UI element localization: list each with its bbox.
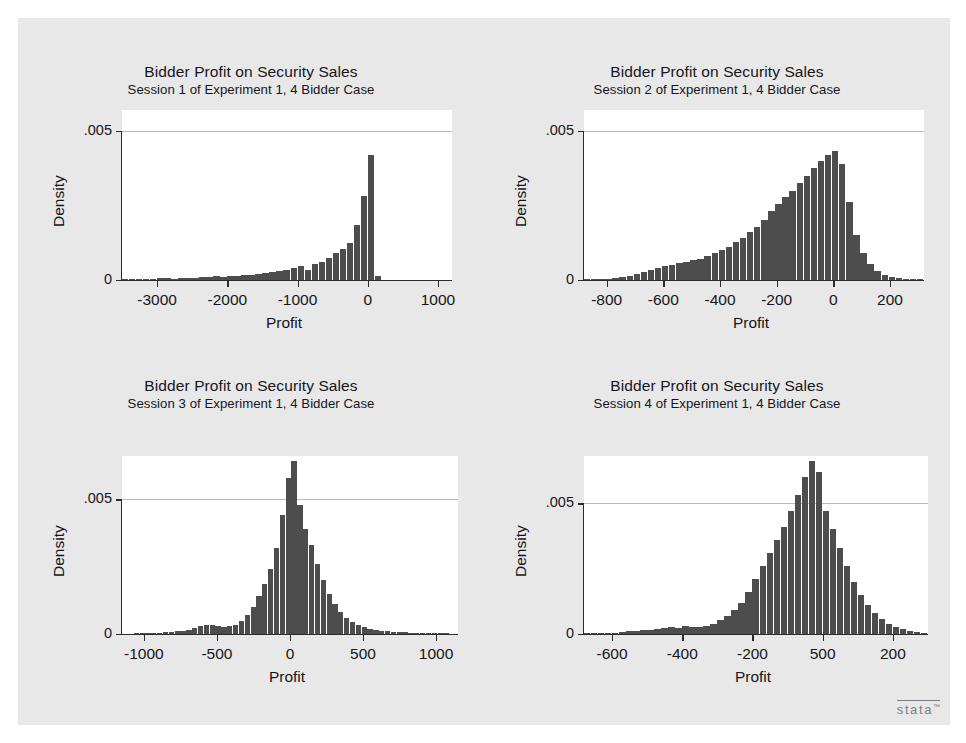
histogram-bar [354,225,360,280]
histogram-bar [269,272,275,280]
x-axis-title: Profit [119,668,455,686]
x-axis-line [121,280,452,281]
histogram-bar [867,264,873,280]
histogram-bar [668,627,674,634]
histogram-bar [344,618,349,634]
histogram-bar [321,580,326,634]
x-axis-line [583,634,928,635]
x-tick [663,281,664,287]
histogram-bar [823,511,829,634]
histogram-bar [221,627,226,634]
histogram-bar [274,548,279,634]
histogram-bar [683,262,689,280]
y-axis-line [583,131,584,280]
histogram-bar [641,272,647,280]
histogram-bar [818,161,824,280]
x-tick [290,635,291,641]
histogram-bar [305,270,311,280]
x-tick [682,635,683,641]
histogram-bar [704,256,710,280]
histogram-bar [893,627,899,634]
histogram-bar [745,592,751,634]
x-tick [777,281,778,287]
histogram-bar [361,196,367,280]
histogram-bar [731,610,737,634]
histogram-bar [338,612,343,634]
histogram-bar [832,151,838,280]
y-axis-title: Density [50,525,68,577]
histogram-bar [356,625,361,634]
histogram-bar [874,271,880,280]
histogram-bar [268,569,273,634]
x-tick [607,281,608,287]
histogram-bar [312,264,318,280]
y-tick [578,503,583,504]
x-axis-title: Profit [581,314,921,332]
histogram-bar [204,625,209,634]
histogram-bar [752,579,758,634]
y-axis-title: Density [50,175,68,227]
histogram-bar [853,235,859,280]
histogram-bar [326,258,332,280]
histogram-bar [738,603,744,634]
histogram-bar [851,582,857,634]
x-axis-title: Profit [581,668,925,686]
histogram-bar [215,626,220,634]
histogram-bar [804,176,810,280]
histogram-bar [262,273,268,280]
histogram-bar [276,271,282,280]
histogram-bar [811,168,817,280]
x-tick [438,281,439,287]
histogram-bar [210,625,215,634]
histogram-bar [837,548,843,634]
x-tick-label: 1000 [386,645,486,663]
x-tick [612,635,613,641]
chart-panel-session-1: Bidder Profit on Security Sales Session … [18,24,484,374]
chart-panel-session-3: Bidder Profit on Security Sales Session … [18,374,484,725]
histogram-bar [286,478,291,634]
x-axis-line [583,280,924,281]
x-tick [720,281,721,287]
histogram-bar [761,220,767,280]
histogram-bar [676,263,682,280]
histogram-bar [332,604,337,634]
histogram-bar [719,250,725,280]
histogram-bar [797,183,803,280]
histogram-bar [872,613,878,634]
x-tick [144,635,145,641]
histogram-bar [262,584,267,634]
x-tick [298,281,299,287]
x-tick-label: 200 [843,645,943,663]
histogram-bar [690,260,696,280]
histogram-bar [858,595,864,634]
histogram-bar [781,527,787,634]
x-axis-title: Profit [119,314,449,332]
x-tick [227,281,228,287]
stata-logo-text: stata [897,702,933,717]
histogram-bar [333,253,339,280]
x-tick [157,281,158,287]
histogram-bar [256,596,261,634]
y-tick-label: .005 [546,122,574,138]
x-tick-label: 200 [840,291,940,309]
histogram-bar [839,164,845,280]
x-tick [752,635,753,641]
histogram-bar [816,472,822,634]
histogram-bar [315,564,320,634]
histogram-bar [747,232,753,280]
y-tick [116,131,121,132]
y-tick [578,634,583,635]
histogram-bar [227,626,232,634]
histogram-bar [782,197,788,280]
y-axis-line [583,503,584,634]
stata-logo: stata™ [897,700,940,717]
histogram-bar [682,626,688,634]
histogram-bar [347,243,353,280]
histogram-bar [303,529,308,634]
x-tick [368,281,369,287]
histogram-bar [689,627,695,634]
histogram-bar [740,238,746,280]
histogram-bar [198,626,203,634]
histogram-bar [844,566,850,634]
histogram-bar [280,515,285,634]
